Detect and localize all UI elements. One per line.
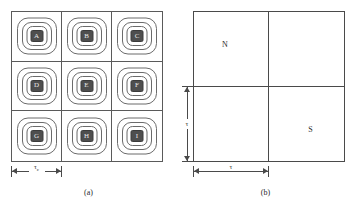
panel-a: A B C (0, 0, 177, 212)
quadrant-top-right (269, 12, 344, 87)
cell-core: G (30, 130, 43, 142)
grid-cell: I (112, 111, 162, 161)
cell-label: A (34, 33, 39, 40)
cell-grid-a: A B C (11, 11, 163, 162)
grid-cell: D (12, 62, 62, 112)
dimension-line (193, 171, 269, 172)
quadrant-bottom-left (194, 87, 269, 162)
grid-cell: A (12, 12, 62, 62)
arrowhead-left-icon (12, 168, 17, 174)
arrowhead-right-icon (56, 168, 61, 174)
cell-core: C (131, 30, 144, 42)
grid-cell: F (112, 62, 162, 112)
cell-label: D (34, 82, 39, 89)
cell-core: I (131, 130, 144, 142)
cell-core: A (30, 30, 43, 42)
arrowhead-left-icon (194, 168, 199, 174)
grid-cell: C (112, 12, 162, 62)
cell-label: B (84, 33, 89, 40)
cell-label: I (136, 133, 138, 140)
figure-root: A B C (0, 0, 354, 212)
grid-cell: H (62, 111, 112, 161)
cell-core: H (80, 130, 93, 142)
cell-label: E (84, 82, 88, 89)
caption-panel-b: (b) (177, 188, 354, 197)
arrowhead-right-icon (263, 168, 268, 174)
region-label-s: S (308, 125, 312, 134)
dimension-label-tau-vertical: τ (181, 119, 193, 129)
cell-label: F (135, 82, 139, 89)
cell-core: E (80, 80, 93, 92)
panel-b: N S τ τ (177, 0, 354, 212)
cell-core: B (80, 30, 93, 42)
caption-panel-a: (a) (0, 188, 177, 197)
grid-cell: B (62, 12, 112, 62)
cell-core: F (131, 80, 144, 92)
quadrant-bottom-right: S (269, 87, 344, 162)
dimension-label-tau-horizontal: τ (223, 163, 239, 171)
arrowhead-up-icon (184, 87, 190, 92)
arrowhead-down-icon (184, 156, 190, 161)
quadrant-grid-b: N S (193, 11, 345, 162)
grid-cell: G (12, 111, 62, 161)
cell-label: C (135, 33, 140, 40)
dimension-tau-c: τc (11, 166, 62, 178)
tau-subscript: c (37, 167, 39, 172)
grid-cell: E (62, 62, 112, 112)
dimension-tau-horizontal: τ (193, 166, 269, 178)
cell-label: H (84, 133, 89, 140)
quadrant-top-left: N (194, 12, 269, 87)
region-label-n: N (222, 40, 228, 49)
dimension-tau-vertical: τ (182, 86, 194, 162)
dimension-label-tau-c: τc (29, 163, 45, 172)
cell-core: D (30, 80, 43, 92)
cell-label: G (34, 133, 39, 140)
